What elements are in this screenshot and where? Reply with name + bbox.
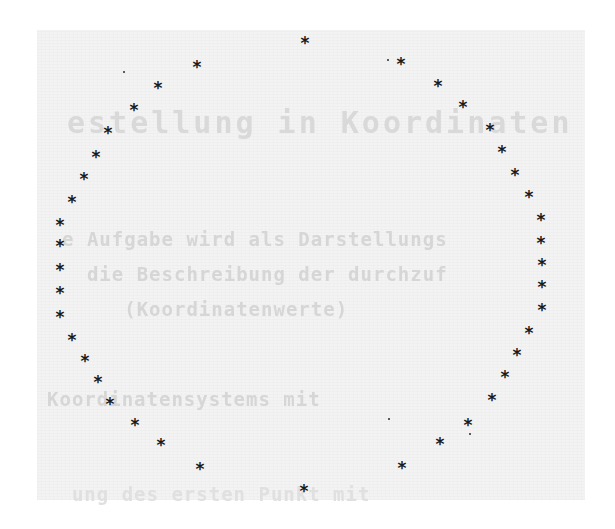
asterisk-marker: *	[485, 393, 499, 407]
asterisk-marker: *	[394, 57, 408, 71]
asterisk-marker: *	[510, 348, 524, 362]
asterisk-marker: *	[522, 326, 536, 340]
ink-speck	[123, 71, 125, 73]
ghost-text-line: ung des ersten Punkt mit	[47, 483, 370, 505]
ghost-text-line: die Beschreibung der durchzuf	[62, 263, 448, 285]
asterisk-marker: *	[77, 172, 91, 186]
asterisk-marker: *	[298, 36, 312, 50]
asterisk-marker: *	[456, 100, 470, 114]
asterisk-marker: *	[297, 484, 311, 498]
asterisk-marker: *	[461, 418, 475, 432]
asterisk-marker: *	[151, 81, 165, 95]
ink-speck	[388, 418, 390, 420]
ghost-text-line: Koordinatensystems mit	[47, 388, 321, 410]
asterisk-marker: *	[91, 375, 105, 389]
asterisk-marker: *	[508, 168, 522, 182]
asterisk-marker: *	[127, 103, 141, 117]
asterisk-marker: *	[53, 310, 67, 324]
asterisk-marker: *	[101, 126, 115, 140]
asterisk-marker: *	[154, 438, 168, 452]
asterisk-marker: *	[193, 462, 207, 476]
asterisk-marker: *	[431, 79, 445, 93]
asterisk-marker: *	[534, 236, 548, 250]
ghost-text-line: e Aufgabe wird als Darstellungs	[62, 228, 448, 250]
asterisk-marker: *	[535, 303, 549, 317]
ghost-text-line: (Koordinatenwerte)	[62, 298, 348, 320]
asterisk-marker: *	[53, 218, 67, 232]
asterisk-marker: *	[395, 461, 409, 475]
asterisk-marker: *	[53, 286, 67, 300]
asterisk-marker: *	[78, 354, 92, 368]
asterisk-marker: *	[498, 370, 512, 384]
asterisk-marker: *	[495, 145, 509, 159]
asterisk-marker: *	[535, 280, 549, 294]
asterisk-marker: *	[89, 150, 103, 164]
asterisk-marker: *	[53, 239, 67, 253]
asterisk-marker: *	[433, 437, 447, 451]
asterisk-marker: *	[522, 190, 536, 204]
asterisk-marker: *	[190, 60, 204, 74]
ink-speck	[469, 433, 471, 435]
asterisk-marker: *	[65, 195, 79, 209]
asterisk-marker: *	[483, 123, 497, 137]
asterisk-marker: *	[103, 397, 117, 411]
asterisk-marker: *	[65, 333, 79, 347]
ink-speck	[387, 59, 389, 61]
asterisk-marker: *	[534, 213, 548, 227]
asterisk-marker: *	[128, 418, 142, 432]
asterisk-marker: *	[535, 258, 549, 272]
scanned-page: estellung in Koordinaten e Aufgabe wird …	[37, 30, 585, 500]
asterisk-marker: *	[53, 263, 67, 277]
